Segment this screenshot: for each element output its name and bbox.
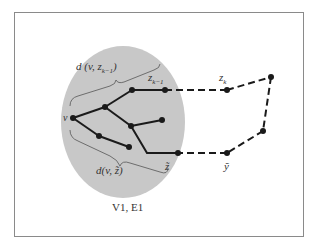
node-v <box>70 115 76 121</box>
node-y-tilde <box>224 150 230 156</box>
node-lower-2 <box>126 144 132 150</box>
node-right-lower <box>260 128 266 134</box>
node-mid <box>128 123 134 129</box>
graph-diagram: v d (v, zk−1) zk−1 zk z̃ ỹ d(v, z̃) V1, … <box>0 0 319 247</box>
node-top <box>129 87 135 93</box>
node-lower-1 <box>96 133 102 139</box>
node-leaf <box>159 117 165 123</box>
label-z-k: zk <box>218 71 227 86</box>
node-z-k-minus-1 <box>162 87 168 93</box>
label-v: v <box>63 112 68 123</box>
label-y-tilde: ỹ <box>223 160 230 172</box>
node-z-k <box>224 87 230 93</box>
node-branch <box>102 104 108 110</box>
caption: V1, E1 <box>112 201 143 213</box>
label-d-bottom: d(v, z̃) <box>96 164 123 177</box>
node-top-right <box>268 74 274 80</box>
node-z-tilde <box>175 150 181 156</box>
